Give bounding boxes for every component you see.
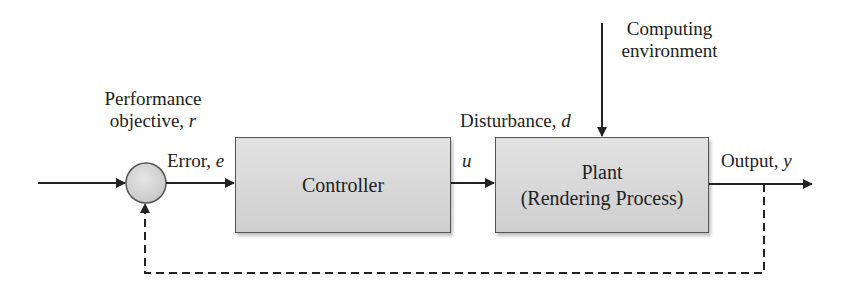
output-text: Output, <box>721 150 783 171</box>
controller-block: Controller <box>235 137 451 233</box>
error-symbol: e <box>216 150 224 171</box>
environment-label: Computing environment <box>612 18 727 62</box>
error-label: Error, e <box>167 150 224 172</box>
environment-line2: environment <box>612 40 727 62</box>
reference-label-line2: objective, r <box>93 110 213 132</box>
control-symbol: u <box>462 150 472 171</box>
disturbance-symbol: d <box>561 110 571 131</box>
output-label: Output, y <box>721 150 792 172</box>
environment-line1: Computing <box>612 18 727 40</box>
plant-label: Plant <box>581 159 622 185</box>
plant-sublabel: (Rendering Process) <box>521 185 684 211</box>
reference-label-line1: Performance <box>93 88 213 110</box>
feedback-arrowhead <box>140 203 150 213</box>
error-text: Error, <box>167 150 216 171</box>
disturbance-text: Disturbance, <box>460 110 561 131</box>
reference-symbol: r <box>189 110 196 131</box>
reference-label: Performance objective, r <box>93 88 213 132</box>
output-symbol: y <box>783 150 791 171</box>
disturbance-label: Disturbance, d <box>460 110 571 132</box>
plant-block: Plant (Rendering Process) <box>495 137 709 233</box>
reference-text: objective, <box>110 110 189 131</box>
control-label: u <box>462 150 472 172</box>
summing-junction <box>126 163 166 203</box>
controller-label: Controller <box>302 172 384 198</box>
